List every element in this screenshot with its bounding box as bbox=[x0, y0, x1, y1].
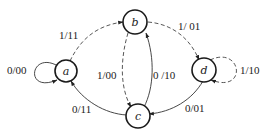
edge-label-c-b: 0 /10 bbox=[153, 69, 176, 81]
node-b: b bbox=[123, 10, 147, 34]
node-d-label: d bbox=[200, 64, 207, 77]
edge-label-d-c: 0/01 bbox=[185, 102, 205, 114]
edge-label-b-c: 1/00 bbox=[97, 69, 117, 81]
edge-a-b bbox=[70, 22, 123, 61]
edge-label-c-a: 0/11 bbox=[72, 103, 91, 115]
node-b-label: b bbox=[131, 16, 138, 29]
node-c-label: c bbox=[135, 110, 141, 123]
state-diagram: a b c d 0/00 1/11 1/ 01 1/00 0 /10 0/11 … bbox=[0, 0, 272, 139]
edge-label-a-a: 0/00 bbox=[7, 64, 27, 76]
edge-label-a-b: 1/11 bbox=[59, 29, 78, 41]
node-d: d bbox=[192, 58, 216, 82]
edge-label-d-d: 1/10 bbox=[240, 64, 260, 76]
node-c: c bbox=[126, 104, 150, 128]
node-a-label: a bbox=[63, 65, 70, 78]
edge-label-b-d: 1/ 01 bbox=[178, 20, 200, 32]
edge-b-c bbox=[122, 33, 131, 107]
edge-c-b bbox=[144, 33, 152, 107]
node-a: a bbox=[55, 60, 77, 82]
